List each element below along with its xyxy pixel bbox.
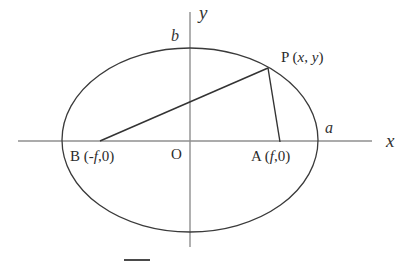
caption-rule-mark	[124, 259, 150, 261]
origin-label: O	[171, 147, 182, 162]
point-b-label-suffix: ,0)	[98, 148, 114, 164]
point-a-label-prefix: A (	[251, 148, 270, 164]
point-a-label-suffix: ,0)	[274, 148, 290, 164]
point-p-label-suffix: )	[318, 49, 323, 65]
point-b-label-prefix: B (-	[70, 148, 94, 164]
figure-canvas: x y b a O B (-f,0) A (f,0) P (x, y)	[0, 0, 418, 264]
point-p-label: P (x, y)	[281, 50, 323, 65]
point-p-label-prefix: P (	[281, 49, 298, 65]
geometry-figure	[0, 0, 418, 264]
segment-pa	[268, 68, 280, 142]
cropped-caption-strip	[0, 254, 418, 264]
semi-major-axis-label-a: a	[325, 120, 333, 136]
segment-bp	[100, 68, 268, 141]
point-b-label: B (-f,0)	[70, 149, 114, 164]
x-axis-label: x	[386, 131, 394, 150]
y-axis-label: y	[199, 3, 207, 22]
semi-minor-axis-label-b: b	[171, 28, 179, 44]
point-p-label-separator: ,	[304, 49, 312, 65]
point-a-label: A (f,0)	[251, 149, 290, 164]
